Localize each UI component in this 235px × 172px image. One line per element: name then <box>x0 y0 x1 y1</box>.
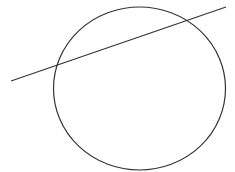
circle-shape <box>54 7 226 170</box>
secant-line <box>11 7 226 81</box>
diagram-canvas <box>0 0 235 172</box>
geometry-figure <box>0 0 235 172</box>
